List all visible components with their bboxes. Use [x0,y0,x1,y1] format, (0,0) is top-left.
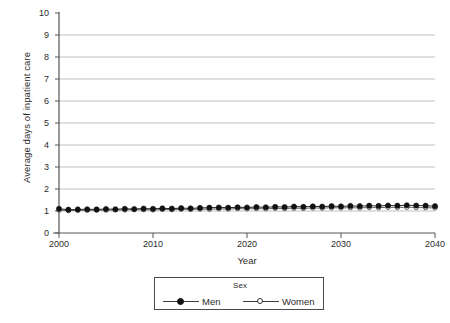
data-point-men [367,203,372,208]
data-point-men [141,206,146,211]
data-point-men [301,204,306,209]
data-point-men [207,205,212,210]
data-point-men [263,205,268,210]
data-point-men [160,206,165,211]
plot-area [0,0,450,323]
data-point-men [66,207,71,212]
legend-title: Sex [155,281,325,290]
data-point-men [395,203,400,208]
data-point-men [179,206,184,211]
data-point-men [423,203,428,208]
data-point-men [188,206,193,211]
legend: Sex Men Women [154,277,324,310]
data-point-men [254,204,259,209]
data-point-men [94,207,99,212]
data-point-men [244,205,249,210]
data-point-men [216,205,221,210]
data-point-men [291,204,296,209]
legend-item-men: Men [163,294,220,308]
data-point-men [56,206,61,211]
chart-figure: Average days of inpatient care Year 0123… [0,0,450,323]
data-point-men [404,203,409,208]
data-point-men [432,204,437,209]
data-point-men [338,204,343,209]
data-point-men [85,207,90,212]
women-marker-icon [243,296,279,306]
data-point-men [132,206,137,211]
data-point-men [414,203,419,208]
legend-item-men-label: Men [202,296,220,307]
data-point-men [226,205,231,210]
data-point-men [282,204,287,209]
data-point-men [329,204,334,209]
data-point-men [197,205,202,210]
data-point-men [310,204,315,209]
data-point-men [169,206,174,211]
legend-item-women-label: Women [282,296,315,307]
data-point-men [376,203,381,208]
data-point-men [103,206,108,211]
legend-item-women: Women [243,294,315,308]
data-point-men [75,207,80,212]
data-point-men [385,203,390,208]
data-point-men [348,203,353,208]
data-point-men [150,206,155,211]
data-point-men [320,204,325,209]
data-point-men [273,204,278,209]
men-marker-icon [163,296,199,306]
data-point-men [122,206,127,211]
data-point-men [113,207,118,212]
data-point-men [357,204,362,209]
data-point-men [235,205,240,210]
